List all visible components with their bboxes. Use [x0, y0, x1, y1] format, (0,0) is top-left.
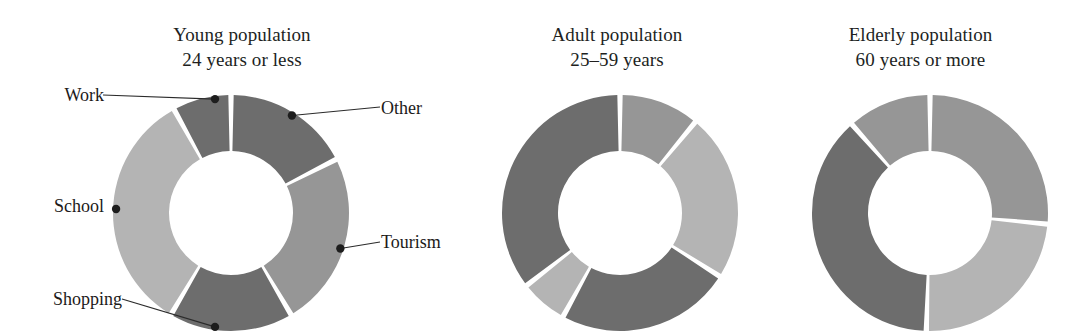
- leader-dot-work: [211, 95, 219, 103]
- young-segment-school: [113, 111, 200, 313]
- young-segment-other: [232, 95, 334, 184]
- young-leader-lines: [103, 95, 380, 331]
- panel-elderly-title-line1: Elderly population: [772, 22, 1069, 47]
- label-other: Other: [381, 98, 461, 119]
- panel-young-title-line1: Young population: [22, 22, 462, 47]
- panel-young-title-line2: 24 years or less: [22, 47, 462, 72]
- leader-dot-other: [288, 111, 296, 119]
- label-school: School: [4, 196, 104, 217]
- adult-segment-tourism: [661, 124, 738, 274]
- adult-segment-shopping: [566, 247, 719, 331]
- adult-segment-other: [621, 95, 693, 164]
- panel-adult-population: Adult population 25–59 years: [462, 0, 772, 334]
- elderly-segment-shopping: [812, 126, 927, 331]
- leader-line-tourism: [340, 242, 380, 249]
- elderly-donut-segments: [812, 95, 1048, 331]
- leader-dot-shopping: [211, 323, 219, 331]
- label-shopping: Shopping: [0, 289, 122, 310]
- panel-elderly-title: Elderly population 60 years or more: [772, 22, 1069, 72]
- adult-segment-work: [502, 95, 619, 283]
- panel-young-title: Young population 24 years or less: [0, 22, 462, 72]
- panel-adult-title: Adult population 25–59 years: [462, 22, 772, 72]
- leader-line-shopping: [122, 299, 215, 327]
- panel-adult-title-line1: Adult population: [462, 22, 772, 47]
- young-donut-segments: [113, 95, 349, 331]
- elderly-segment-other: [931, 95, 1048, 221]
- panel-elderly-title-line2: 60 years or more: [772, 47, 1069, 72]
- adult-donut-segments: [502, 95, 738, 331]
- donut-chart-figure: Young population 24 years or less Work S…: [0, 0, 1069, 334]
- leader-line-work: [103, 95, 215, 99]
- young-segment-work: [177, 95, 230, 158]
- panel-adult-title-line2: 25–59 years: [462, 47, 772, 72]
- adult-segment-school: [528, 252, 588, 315]
- leader-line-other: [292, 107, 380, 115]
- label-work: Work: [14, 85, 104, 106]
- young-segment-shopping: [173, 267, 288, 331]
- leader-dot-school: [112, 205, 120, 213]
- young-segment-tourism: [264, 162, 349, 313]
- leader-line-school: [113, 206, 116, 209]
- elderly-segment-school: [854, 95, 929, 166]
- panel-young-population: Young population 24 years or less Work S…: [0, 0, 462, 334]
- panel-elderly-population: Elderly population 60 years or more: [772, 0, 1069, 334]
- leader-dot-tourism: [336, 244, 344, 252]
- elderly-segment-tourism: [929, 220, 1047, 331]
